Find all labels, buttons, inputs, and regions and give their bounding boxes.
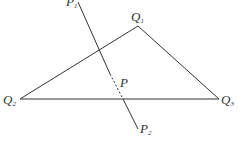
label-q2: Q2 <box>3 92 16 108</box>
label-p2: P2 <box>139 121 152 137</box>
geometry-diagram: P1 Q1 Q2 Q3 P P2 <box>0 0 238 144</box>
line-p1-p2-upper <box>78 2 110 74</box>
label-q1: Q1 <box>131 9 144 25</box>
line-p1-p2-lower <box>123 99 138 129</box>
edge-q1-q3 <box>138 26 219 99</box>
label-p: P <box>119 75 128 90</box>
label-q3: Q3 <box>221 92 234 108</box>
label-p1: P1 <box>65 0 77 10</box>
